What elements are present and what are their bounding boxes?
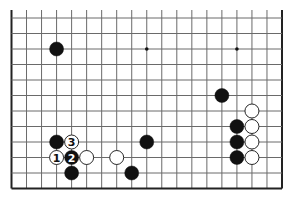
black-stone bbox=[230, 151, 244, 165]
white-stone bbox=[80, 151, 94, 165]
black-stone bbox=[215, 89, 229, 103]
white-stone bbox=[110, 151, 124, 165]
black-stone-disc bbox=[50, 135, 64, 149]
white-stone-disc bbox=[110, 151, 124, 165]
white-stone bbox=[245, 104, 259, 118]
star-point bbox=[145, 47, 149, 51]
black-stone-disc bbox=[125, 166, 139, 180]
black-stone-disc bbox=[140, 135, 154, 149]
black-stone-disc bbox=[230, 151, 244, 165]
black-stone bbox=[140, 135, 154, 149]
white-stone-disc bbox=[245, 120, 259, 134]
black-stone-disc bbox=[65, 166, 79, 180]
black-stone-disc bbox=[50, 42, 64, 56]
black-stone-disc bbox=[215, 89, 229, 103]
black-stone bbox=[50, 42, 64, 56]
white-stone: 1 bbox=[50, 151, 64, 165]
star-point bbox=[235, 47, 239, 51]
move-number-label: 2 bbox=[68, 152, 76, 165]
black-stone-disc bbox=[230, 120, 244, 134]
white-stone bbox=[245, 120, 259, 134]
black-stone-disc bbox=[230, 135, 244, 149]
black-stone: 2 bbox=[65, 151, 79, 165]
move-number-label: 1 bbox=[53, 152, 61, 165]
white-stone-disc bbox=[245, 151, 259, 165]
move-number-label: 3 bbox=[68, 136, 76, 149]
white-stone-disc bbox=[245, 135, 259, 149]
white-stone: 3 bbox=[65, 135, 79, 149]
white-stone bbox=[245, 135, 259, 149]
black-stone bbox=[65, 166, 79, 180]
go-board: 312 bbox=[0, 0, 289, 202]
black-stone bbox=[230, 120, 244, 134]
black-stone bbox=[125, 166, 139, 180]
black-stone bbox=[230, 135, 244, 149]
black-stone bbox=[50, 135, 64, 149]
white-stone bbox=[245, 151, 259, 165]
white-stone-disc bbox=[245, 104, 259, 118]
white-stone-disc bbox=[80, 151, 94, 165]
